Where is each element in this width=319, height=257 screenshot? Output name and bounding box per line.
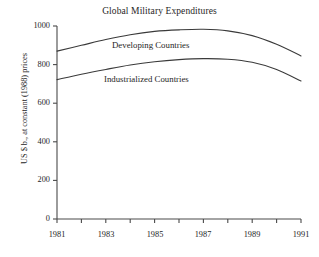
plot-area bbox=[0, 0, 319, 257]
series-line-developing-countries bbox=[57, 29, 301, 56]
axes bbox=[57, 26, 301, 219]
chart-figure: Global Military Expenditures US $ b., at… bbox=[0, 0, 319, 257]
y-axis-ticks bbox=[53, 26, 57, 219]
x-axis-ticks bbox=[57, 219, 301, 223]
data-series-lines bbox=[57, 29, 301, 81]
series-line-industrialized-countries bbox=[57, 59, 301, 81]
